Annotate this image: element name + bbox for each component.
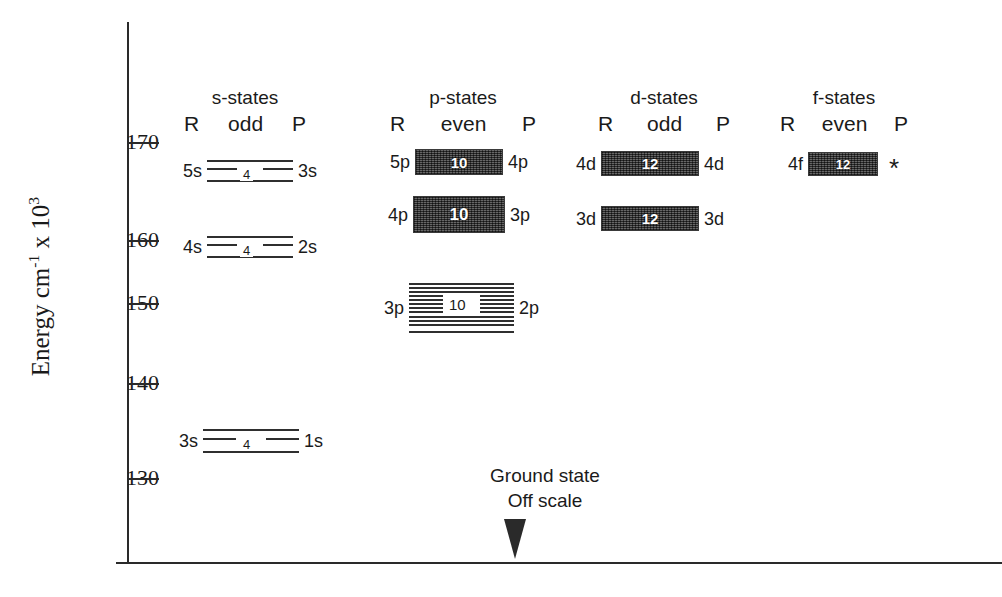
energy-level-diagram: Energy cm-1 x 103 170 160 150 140 130 s-…: [0, 0, 1002, 597]
level-line: [409, 291, 514, 293]
y-tick-mark-140: [129, 383, 159, 385]
column-subhead-d: R odd P: [596, 110, 732, 137]
level-group-4f: 4f 12: [808, 152, 878, 176]
level-group-5s-3s: 5s 3s 4: [207, 160, 293, 182]
level-group-3d-3d: 3d 3d 12: [601, 206, 699, 231]
level-group-3s-1s: 3s 1s 4: [203, 429, 299, 453]
column-header-d: d-states R odd P: [596, 86, 732, 137]
level-count-4f: 12: [836, 158, 850, 171]
level-line: [480, 295, 514, 297]
column-f-left-header: R: [780, 110, 795, 137]
column-s-left-header: R: [184, 110, 199, 137]
level-right-label-3d: 3d: [704, 210, 724, 228]
column-d-parity: odd: [647, 110, 682, 137]
y-tick-mark-130: [129, 478, 159, 480]
column-title-p: p-states: [388, 86, 538, 110]
level-count-5s-3s: 4: [240, 168, 253, 181]
ground-state-line-2: Off scale: [455, 488, 635, 513]
column-subhead-p: R even P: [388, 110, 538, 137]
level-right-label-2p: 2p: [519, 299, 539, 317]
level-group-4p-3p: 4p 3p 10: [413, 196, 505, 233]
level-line: [409, 311, 443, 313]
y-tick-130: 130: [0, 478, 159, 480]
ground-state-arrow-icon: [504, 519, 526, 559]
y-tick-mark-160: [129, 240, 159, 242]
level-count-3s-1s: 4: [240, 438, 253, 451]
level-right-label-4p: 4p: [508, 153, 528, 171]
y-tick-160: 160: [0, 240, 159, 242]
level-count-4d-4d: 12: [642, 156, 659, 171]
level-group-5p-4p: 5p 4p 10: [415, 149, 503, 175]
level-lines-3p-2p: 10: [409, 283, 514, 333]
level-group-4s-2s: 4s 2s 4: [207, 236, 293, 258]
level-left-label-3s: 3s: [179, 432, 198, 450]
y-tick-140: 140: [0, 383, 159, 385]
level-left-label-3d: 3d: [576, 210, 596, 228]
level-left-label-4f: 4f: [788, 155, 803, 173]
level-line: [203, 438, 236, 440]
level-line: [203, 451, 299, 453]
level-lines-5s-3s: 4: [207, 160, 293, 182]
column-header-p: p-states R even P: [388, 86, 538, 137]
level-line: [263, 244, 293, 246]
level-left-label-5p: 5p: [390, 153, 410, 171]
ground-state-note: Ground state Off scale: [455, 463, 635, 513]
level-line: [409, 303, 443, 305]
level-line: [409, 324, 514, 326]
level-line: [409, 320, 514, 322]
level-line: [409, 295, 443, 297]
level-count-4p-3p: 10: [450, 206, 469, 223]
level-line: [480, 307, 514, 309]
level-line: [409, 283, 514, 285]
column-title-s: s-states: [182, 86, 308, 110]
level-line: [409, 287, 514, 289]
level-line: [409, 331, 514, 333]
column-subhead-s: R odd P: [182, 110, 308, 137]
column-header-f: f-states R even P: [778, 86, 910, 137]
level-band-4f: 12: [808, 152, 878, 176]
level-right-label-1s: 1s: [304, 432, 323, 450]
level-line: [409, 307, 443, 309]
level-band-5p-4p: 10: [415, 149, 503, 175]
level-band-4d-4d: 12: [601, 151, 699, 176]
y-tick-170: 170: [0, 142, 159, 144]
level-left-label-4d: 4d: [576, 155, 596, 173]
level-right-label-2s: 2s: [298, 238, 317, 256]
f-state-asterisk-marker: *: [889, 155, 899, 181]
y-tick-150: 150: [0, 303, 159, 305]
level-count-5p-4p: 10: [451, 155, 468, 170]
level-right-label-4d: 4d: [704, 155, 724, 173]
level-line: [480, 299, 514, 301]
column-title-d: d-states: [596, 86, 732, 110]
level-left-label-4p: 4p: [388, 206, 408, 224]
level-line: [409, 316, 514, 318]
column-f-parity: even: [822, 110, 868, 137]
level-line: [203, 429, 299, 431]
level-group-3p-2p: 3p 2p 10: [409, 283, 514, 333]
level-line: [263, 168, 293, 170]
column-p-parity: even: [441, 110, 487, 137]
level-line: [207, 168, 237, 170]
column-s-parity: odd: [228, 110, 263, 137]
level-lines-4s-2s: 4: [207, 236, 293, 258]
level-right-label-3s: 3s: [298, 162, 317, 180]
ground-state-line-1: Ground state: [455, 463, 635, 488]
column-p-left-header: R: [390, 110, 405, 137]
y-axis-title: Energy cm-1 x 103: [25, 127, 54, 447]
y-axis-title-exp1: -1: [25, 255, 42, 268]
column-s-right-header: P: [292, 110, 306, 137]
y-axis-title-mid: x 10: [27, 205, 54, 255]
level-left-label-5s: 5s: [183, 162, 202, 180]
level-band-4p-3p: 10: [413, 196, 505, 233]
y-axis-title-exp2: 3: [25, 197, 42, 205]
level-lines-3s-1s: 4: [203, 429, 299, 453]
level-line: [207, 236, 293, 238]
level-count-3p-2p: 10: [446, 297, 469, 312]
column-d-left-header: R: [598, 110, 613, 137]
y-tick-mark-150: [129, 303, 159, 305]
level-line: [480, 303, 514, 305]
column-subhead-f: R even P: [778, 110, 910, 137]
column-p-right-header: P: [522, 110, 536, 137]
level-count-3d-3d: 12: [642, 211, 659, 226]
level-line: [266, 438, 299, 440]
